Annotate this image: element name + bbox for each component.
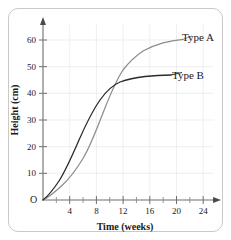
x-tick-label-8: 8 xyxy=(87,207,105,216)
series-label-type-b: Type B xyxy=(172,70,204,81)
y-axis-title: Height (cm) xyxy=(10,75,20,145)
y-tick-label-60: 60 xyxy=(14,36,36,45)
series-label-type-a: Type A xyxy=(182,32,214,43)
x-tick-label-20: 20 xyxy=(168,207,186,216)
x-tick-label-4: 4 xyxy=(61,207,79,216)
y-axis-arrow-icon xyxy=(40,17,46,25)
y-tick-label-10: 10 xyxy=(14,169,36,178)
y-tick-label-50: 50 xyxy=(14,63,36,72)
x-axis-title: Time (weeks) xyxy=(70,222,180,232)
figure-container: 60 50 40 30 20 10 4 8 12 16 20 24 O Heig… xyxy=(0,0,231,240)
x-tick-label-24: 24 xyxy=(194,207,212,216)
x-axis-arrow-icon xyxy=(213,197,221,203)
x-tick-label-16: 16 xyxy=(141,207,159,216)
gridlines xyxy=(43,24,214,200)
origin-label: O xyxy=(30,195,37,205)
curve-type-b xyxy=(43,75,171,200)
x-tick-label-12: 12 xyxy=(114,207,132,216)
